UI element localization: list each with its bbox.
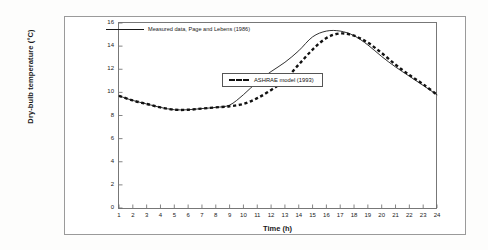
y-tick-label: 14 — [98, 42, 114, 48]
x-tick-label: 21 — [389, 212, 403, 218]
legend-measured-label: Measured data, Page and Lebens (1986) — [148, 26, 250, 32]
tick-marks — [119, 23, 437, 208]
y-tick-label: 16 — [98, 19, 114, 25]
x-tick-label: 20 — [375, 212, 389, 218]
x-tick-label: 22 — [402, 212, 416, 218]
y-tick-label: 8 — [98, 112, 114, 118]
x-tick-label: 6 — [181, 212, 195, 218]
x-tick-label: 9 — [223, 212, 237, 218]
y-tick-label: 12 — [98, 65, 114, 71]
x-tick-label: 18 — [347, 212, 361, 218]
x-tick-label: 23 — [416, 212, 430, 218]
x-tick-label: 24 — [430, 212, 444, 218]
legend-item-ashrae: ASHRAE model (1993) — [222, 73, 323, 87]
series-line-ashrae — [119, 33, 437, 110]
x-tick-label: 12 — [264, 212, 278, 218]
x-tick-label: 8 — [209, 212, 223, 218]
legend-ashrae-label: ASHRAE model (1993) — [254, 77, 314, 83]
x-tick-label: 17 — [333, 212, 347, 218]
y-tick-label: 6 — [98, 135, 114, 141]
x-tick-label: 13 — [278, 212, 292, 218]
x-tick-label: 3 — [140, 212, 154, 218]
series-line-measured — [119, 30, 437, 110]
legend-dashed-line-swatch — [229, 79, 249, 81]
x-tick-label: 15 — [306, 212, 320, 218]
y-tick-label: 4 — [98, 158, 114, 164]
y-tick-label: 10 — [98, 88, 114, 94]
x-tick-label: 5 — [167, 212, 181, 218]
x-tick-label: 19 — [361, 212, 375, 218]
x-tick-label: 11 — [250, 212, 264, 218]
x-tick-label: 16 — [319, 212, 333, 218]
x-tick-label: 10 — [236, 212, 250, 218]
x-tick-label: 7 — [195, 212, 209, 218]
legend-solid-line-swatch — [106, 29, 144, 30]
y-tick-label: 2 — [98, 181, 114, 187]
x-axis-title: Time (h) — [118, 224, 437, 233]
x-tick-label: 14 — [292, 212, 306, 218]
legend-item-measured: Measured data, Page and Lebens (1986) — [106, 26, 250, 32]
y-tick-label: 0 — [98, 204, 114, 210]
x-tick-label: 4 — [153, 212, 167, 218]
y-axis-title: Dry-bulb temperature (°C) — [26, 17, 35, 137]
x-tick-label: 2 — [126, 212, 140, 218]
x-tick-label: 1 — [112, 212, 126, 218]
